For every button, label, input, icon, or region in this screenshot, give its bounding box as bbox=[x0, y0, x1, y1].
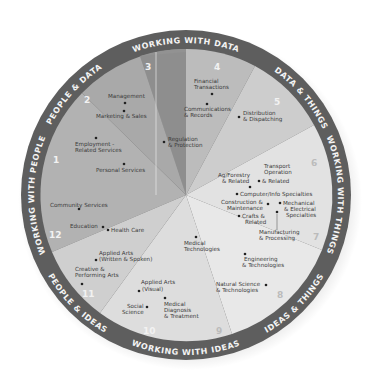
svg-text:& Technologies: & Technologies bbox=[216, 287, 258, 294]
svg-text:Marketing & Sales: Marketing & Sales bbox=[96, 113, 147, 120]
career-construction-maintenance[interactable]: Construction & Maintenance bbox=[221, 199, 269, 211]
region-number-7: 7 bbox=[313, 232, 319, 242]
svg-text:Related Services: Related Services bbox=[75, 147, 122, 153]
region-number-9: 9 bbox=[216, 326, 222, 336]
region-number-3: 3 bbox=[145, 62, 151, 72]
region-number-6: 6 bbox=[311, 158, 317, 168]
career-regulation-protection[interactable]: Regulation & Protection bbox=[163, 136, 203, 148]
svg-text:(Written & Spoken): (Written & Spoken) bbox=[99, 256, 152, 263]
svg-text:Maintenance: Maintenance bbox=[227, 205, 264, 211]
region-number-10: 10 bbox=[143, 326, 156, 336]
svg-text:Technologies: Technologies bbox=[183, 246, 220, 253]
svg-text:(Visual): (Visual) bbox=[142, 286, 163, 292]
svg-text:Management: Management bbox=[108, 93, 146, 100]
svg-text:Specialties: Specialties bbox=[286, 212, 316, 219]
svg-text:& Dispatching: & Dispatching bbox=[243, 116, 283, 123]
svg-text:Science: Science bbox=[122, 309, 144, 315]
svg-text:Operation: Operation bbox=[264, 169, 292, 176]
svg-text:Computer/Info Specialties: Computer/Info Specialties bbox=[240, 191, 312, 198]
svg-text:Personal Services: Personal Services bbox=[96, 167, 145, 173]
svg-text:& Protection: & Protection bbox=[168, 142, 203, 148]
svg-text:& Related: & Related bbox=[222, 178, 250, 184]
svg-text:& Technologies: & Technologies bbox=[242, 262, 284, 269]
svg-text:& Related: & Related bbox=[262, 178, 290, 184]
region-number-4: 4 bbox=[214, 62, 220, 72]
career-health-care[interactable]: Health Care bbox=[107, 227, 145, 233]
region-number-12: 12 bbox=[49, 230, 62, 240]
region-number-2: 2 bbox=[84, 95, 90, 105]
svg-text:Related: Related bbox=[245, 219, 267, 225]
svg-text:& Processing: & Processing bbox=[259, 235, 295, 242]
svg-text:& Treatment: & Treatment bbox=[164, 313, 199, 319]
svg-text:Performing Arts: Performing Arts bbox=[75, 272, 119, 279]
region-number-8: 8 bbox=[277, 290, 283, 300]
svg-text:Education: Education bbox=[70, 223, 98, 229]
region-number-1: 1 bbox=[53, 155, 59, 165]
svg-text:Applied Arts: Applied Arts bbox=[141, 279, 175, 286]
svg-text:Health Care: Health Care bbox=[111, 227, 145, 233]
svg-text:& Records: & Records bbox=[184, 112, 212, 118]
career-wheel-diagram: WORKING WITH DATA DATA & THINGS WORKING … bbox=[0, 0, 368, 392]
career-computer-info[interactable]: Computer/Info Specialties bbox=[236, 191, 313, 198]
region-number-11: 11 bbox=[82, 289, 95, 299]
svg-text:Transactions: Transactions bbox=[193, 84, 229, 90]
region-number-5: 5 bbox=[274, 97, 280, 107]
